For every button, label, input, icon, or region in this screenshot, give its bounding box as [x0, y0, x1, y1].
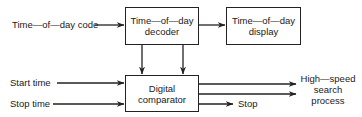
comparator-label-line2: comparator: [138, 94, 186, 105]
high-speed-line3: process: [299, 95, 357, 106]
comparator-block: Digital comparator: [125, 75, 199, 112]
decoder-block: Time—of—day decoder: [125, 7, 199, 45]
high-speed-line2: search: [299, 84, 357, 95]
display-label-line2: display: [232, 26, 295, 37]
decoder-label-line1: Time—of—day: [131, 15, 194, 26]
comparator-label-line1: Digital: [138, 83, 186, 94]
stop-time-input-label: Stop time: [10, 98, 50, 109]
display-block: Time—of—day display: [226, 7, 301, 45]
stop-output-label: Stop: [238, 98, 258, 109]
high-speed-line1: High—speed: [299, 73, 357, 84]
high-speed-search-output-label: High—speed search process: [299, 73, 357, 106]
start-time-input-label: Start time: [10, 77, 51, 88]
display-label-line1: Time—of—day: [232, 15, 295, 26]
time-code-input-label: Time—of—day code: [12, 19, 98, 30]
decoder-label-line2: decoder: [131, 26, 194, 37]
